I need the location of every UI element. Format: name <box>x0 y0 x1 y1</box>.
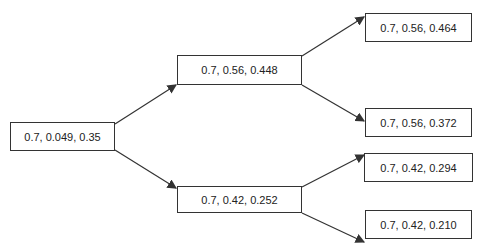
node-mid-bottom: 0.7, 0.42, 0.252 <box>177 186 302 213</box>
node-leaf-2: 0.7, 0.56, 0.372 <box>365 108 472 137</box>
node-root: 0.7, 0.049, 0.35 <box>10 122 115 151</box>
node-leaf-1: 0.7, 0.56, 0.464 <box>365 13 472 42</box>
edge-root-midbottom <box>115 150 176 188</box>
edge-root-midtop <box>115 85 176 124</box>
node-leaf-4: 0.7, 0.42, 0.210 <box>365 210 472 239</box>
edge-midbottom-leaf4 <box>302 213 364 242</box>
edge-midtop-leaf2 <box>302 85 364 121</box>
edge-midbottom-leaf3 <box>302 155 364 187</box>
edge-midtop-leaf1 <box>302 17 364 56</box>
node-mid-top: 0.7, 0.56, 0.448 <box>177 55 302 85</box>
node-leaf-3: 0.7, 0.42, 0.294 <box>364 153 473 182</box>
